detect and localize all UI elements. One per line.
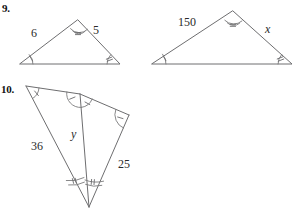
bottom-left-tick-b: [75, 178, 76, 183]
segment-y-shared-cevian: [80, 94, 89, 207]
side-label-y: y: [71, 128, 76, 140]
top-mid-left-tick: [70, 97, 75, 99]
right-vertex-tick: [118, 117, 123, 119]
side-label-36: 36: [31, 140, 43, 152]
segment-top-mid-to-right: [80, 94, 129, 115]
side-label-25: 25: [118, 158, 130, 170]
geometry-worksheet: 9. 10. 6 5 150 x: [0, 0, 306, 222]
bottom-left-tick-a: [72, 179, 73, 184]
figure-10-overlapping-triangles: [0, 0, 306, 222]
segment-top-left-to-top-mid: [26, 86, 80, 94]
